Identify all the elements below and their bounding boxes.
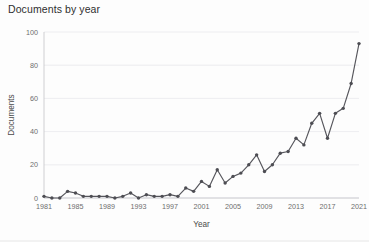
documents-by-year-chart: Documents by year 020406080100 198119851…: [0, 0, 369, 242]
svg-text:60: 60: [30, 94, 38, 103]
svg-text:2013: 2013: [288, 202, 304, 211]
svg-text:20: 20: [30, 160, 38, 169]
svg-text:2005: 2005: [225, 202, 241, 211]
data-series-documents: [44, 44, 359, 198]
axis-lines: [44, 32, 359, 198]
svg-text:1993: 1993: [131, 202, 147, 211]
svg-text:1981: 1981: [36, 202, 52, 211]
svg-text:40: 40: [30, 127, 38, 136]
gridlines: [44, 32, 359, 198]
svg-text:1997: 1997: [162, 202, 178, 211]
svg-text:80: 80: [30, 61, 38, 70]
svg-text:2009: 2009: [257, 202, 273, 211]
y-axis-tick-labels: 020406080100: [26, 28, 38, 203]
chart-plot-area: 020406080100 198119851989199319972001200…: [0, 0, 369, 242]
x-axis-tick-labels: 1981198519891993199720012005200920132017…: [36, 202, 367, 211]
svg-text:1989: 1989: [99, 202, 115, 211]
svg-text:2017: 2017: [320, 202, 336, 211]
svg-text:1985: 1985: [68, 202, 84, 211]
y-axis-title: Documents: [7, 94, 16, 135]
svg-text:100: 100: [26, 28, 38, 37]
x-axis-title: Year: [193, 220, 210, 229]
svg-text:2021: 2021: [351, 202, 367, 211]
svg-text:2001: 2001: [194, 202, 210, 211]
